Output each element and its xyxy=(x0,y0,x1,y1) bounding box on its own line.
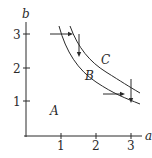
y-tick-label-2: 2 xyxy=(13,62,21,76)
diagram-canvas: b a 1 2 3 3 2 1 A B C xyxy=(0,0,152,158)
arrowhead-down-top xyxy=(77,52,81,57)
y-tick-label-3: 3 xyxy=(13,28,21,42)
x-axis-label: a xyxy=(145,129,152,143)
x-tick-label-1: 1 xyxy=(57,139,65,153)
x-tick-label-3: 3 xyxy=(127,139,135,153)
region-label-a: A xyxy=(49,104,59,118)
inner-curve xyxy=(59,26,140,104)
arrowhead-right-bottom xyxy=(120,92,125,96)
y-tick-label-1: 1 xyxy=(13,95,21,109)
x-tick-label-2: 2 xyxy=(92,139,100,153)
region-label-c: C xyxy=(101,53,110,67)
region-label-b: B xyxy=(84,69,94,83)
y-axis-label: b xyxy=(22,7,30,21)
